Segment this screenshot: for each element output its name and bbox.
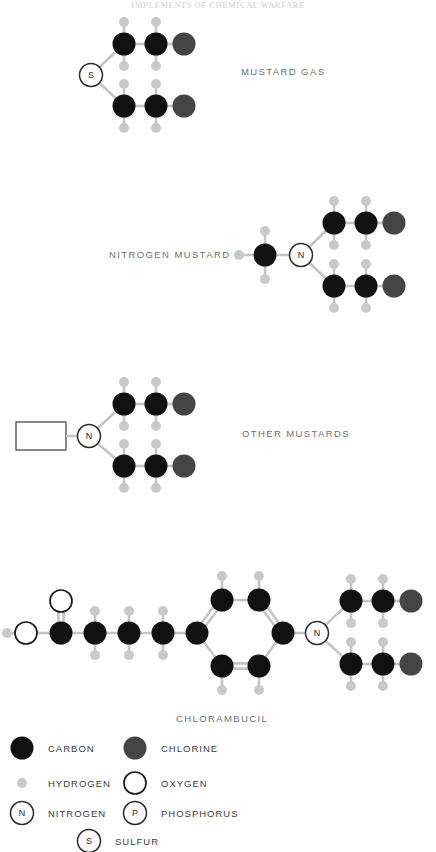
atom-h — [119, 483, 129, 493]
phosphorus-swatch-letter: P — [132, 808, 138, 818]
atom-c — [355, 212, 378, 235]
atom-c — [254, 244, 277, 267]
atom-h — [378, 574, 388, 584]
atom-h — [254, 685, 264, 695]
atom-h — [361, 303, 371, 313]
atom-h — [151, 79, 161, 89]
svg-text:N: N — [314, 628, 321, 638]
atom-h — [158, 606, 168, 616]
carbon-swatch-icon — [11, 737, 34, 760]
atom-h — [260, 226, 270, 236]
legend-label-oxygen: OXYGEN — [161, 778, 208, 789]
legend-item-phosphorus: PPHOSPHORUS — [124, 802, 239, 825]
svg-text:N: N — [86, 431, 93, 441]
atom-s: S — [80, 64, 103, 87]
atom-h — [151, 17, 161, 27]
atom-cl — [173, 33, 196, 56]
atom-c — [323, 275, 346, 298]
legend-label-nitrogen: NITROGEN — [48, 808, 106, 819]
atom-h — [119, 439, 129, 449]
atom-h — [119, 61, 129, 71]
atom-c — [118, 622, 141, 645]
atom-h — [260, 274, 270, 284]
atom-h — [151, 61, 161, 71]
atom-h — [151, 483, 161, 493]
atom-h — [346, 637, 356, 647]
atom-n: N — [290, 244, 313, 267]
atom-c — [211, 655, 234, 678]
atom-c — [186, 622, 209, 645]
atom-h — [124, 606, 134, 616]
atom-c — [272, 622, 295, 645]
atom-h — [217, 685, 227, 695]
atom-h — [119, 123, 129, 133]
sulfur-swatch-letter: S — [86, 836, 92, 846]
atom-h — [329, 196, 339, 206]
atom-h — [151, 421, 161, 431]
hydrogen-swatch-icon — [17, 778, 27, 788]
atom-c — [248, 655, 271, 678]
chlorine-swatch-icon — [124, 737, 147, 760]
atom-c — [355, 275, 378, 298]
r-group-placeholder-box — [16, 422, 66, 450]
atom-cl — [400, 590, 423, 613]
atom-h — [346, 681, 356, 691]
atom-cl — [400, 653, 423, 676]
atom-c — [248, 589, 271, 612]
atom-c — [211, 589, 234, 612]
atom-h — [158, 650, 168, 660]
atom-c — [372, 653, 395, 676]
legend-item-chlorine: CHLORINE — [124, 737, 219, 760]
atom-h — [234, 250, 244, 260]
atom-o — [50, 590, 72, 612]
legend-label-phosphorus: PHOSPHORUS — [161, 808, 239, 819]
atom-h — [119, 421, 129, 431]
atom-h — [90, 606, 100, 616]
atom-c — [50, 622, 73, 645]
oxygen-swatch-icon — [124, 772, 146, 794]
atom-h — [329, 303, 339, 313]
molecule-label-mustard-gas: MUSTARD GAS — [241, 66, 325, 77]
atom-h — [346, 574, 356, 584]
atom-c — [113, 95, 136, 118]
atom-h — [378, 681, 388, 691]
atom-c — [145, 33, 168, 56]
legend-label-chlorine: CHLORINE — [161, 743, 218, 754]
atom-h — [2, 628, 12, 638]
atom-c — [340, 653, 363, 676]
atom-h — [378, 637, 388, 647]
atom-h — [151, 439, 161, 449]
legend-item-nitrogen: NNITROGEN — [11, 802, 107, 825]
legend-item-oxygen: OXYGEN — [124, 772, 208, 794]
atom-c — [113, 33, 136, 56]
atom-h — [124, 650, 134, 660]
atom-h — [217, 571, 227, 581]
atom-cl — [383, 212, 406, 235]
atom-c — [84, 622, 107, 645]
atom-h — [329, 259, 339, 269]
atom-cl — [383, 275, 406, 298]
atom-n: N — [306, 622, 329, 645]
atom-h — [378, 618, 388, 628]
atom-cl — [173, 95, 196, 118]
legend-label-carbon: CARBON — [48, 743, 95, 754]
atom-c — [145, 455, 168, 478]
atom-c — [145, 393, 168, 416]
atom-cl — [173, 455, 196, 478]
atom-c — [113, 393, 136, 416]
legend-layer: CARBONCHLORINEHYDROGENOXYGENNNITROGENPPH… — [11, 737, 239, 852]
atom-cl — [173, 393, 196, 416]
nitrogen-swatch-letter: N — [19, 808, 26, 818]
atom-h — [151, 123, 161, 133]
molecule-diagram-canvas: SNNN MUSTARD GASNITROGEN MUSTARDOTHER MU… — [0, 0, 436, 852]
legend-item-carbon: CARBON — [11, 737, 95, 760]
atom-h — [90, 650, 100, 660]
atom-c — [145, 95, 168, 118]
atom-o — [15, 622, 37, 644]
legend-label-hydrogen: HYDROGEN — [48, 778, 111, 789]
molecule-label-nitrogen-mustard: NITROGEN MUSTARD — [109, 249, 230, 260]
molecule-label-chlorambucil: CHLORAMBUCIL — [176, 713, 268, 724]
atom-layer: SNNN — [2, 17, 423, 695]
atom-c — [372, 590, 395, 613]
legend-label-sulfur: SULFUR — [115, 836, 159, 847]
